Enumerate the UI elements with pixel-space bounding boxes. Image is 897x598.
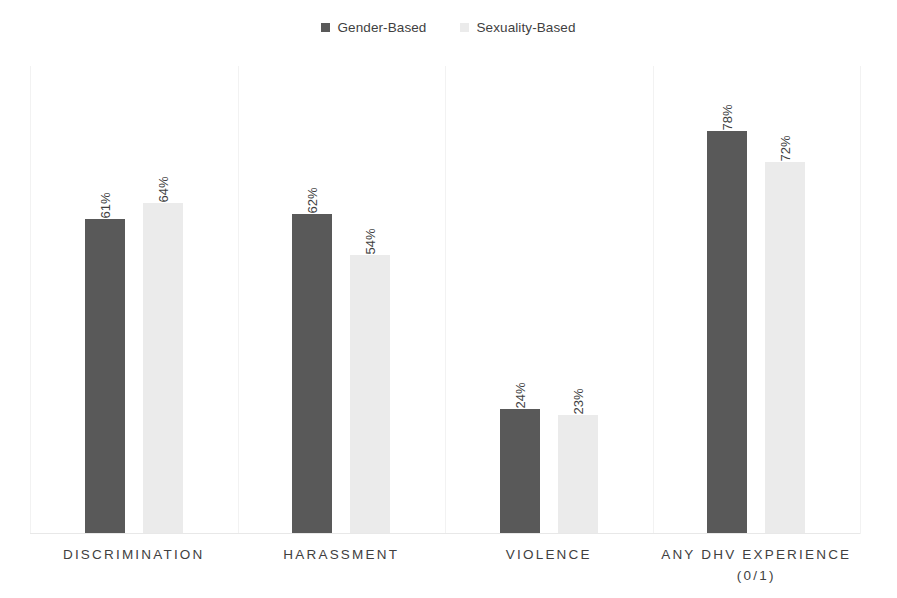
chart-legend: Gender-Based Sexuality-Based (0, 20, 897, 35)
legend-swatch-sexuality-based (460, 23, 469, 32)
legend-label-gender-based: Gender-Based (337, 20, 426, 35)
bar-value-label: 78% (707, 110, 747, 125)
legend-swatch-gender-based (321, 23, 330, 32)
axis-baseline (30, 533, 860, 534)
bar-chart-plot-area: 61%64%62%54%24%23%78%72% (30, 66, 860, 534)
x-axis-label-discrimination: DISCRIMINATION (30, 544, 238, 565)
x-axis-label-harassment: HARASSMENT (238, 544, 446, 565)
legend-item-sexuality-based: Sexuality-Based (460, 20, 575, 35)
gridline-vertical (860, 66, 861, 534)
legend-label-sexuality-based: Sexuality-Based (476, 20, 575, 35)
legend-item-gender-based: Gender-Based (321, 20, 426, 35)
bar-column[interactable]: 78% (707, 66, 747, 533)
bar-value-label: 72% (765, 141, 805, 156)
x-axis-label-any-dhv-experience: ANY DHV EXPERIENCE (0/1) (653, 544, 861, 586)
bar-group: 78%72% (30, 66, 860, 533)
bar-column[interactable]: 72% (765, 66, 805, 533)
bar-gender-based[interactable] (707, 131, 747, 533)
x-axis-label-violence: VIOLENCE (445, 544, 653, 565)
bar-sexuality-based[interactable] (765, 162, 805, 533)
